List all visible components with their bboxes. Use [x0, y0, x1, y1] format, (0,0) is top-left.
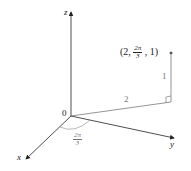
diagram-canvas	[0, 0, 191, 171]
y-axis	[71, 116, 174, 138]
cylindrical-coordinates-diagram: z y x 0 (2, 2π 3 , 1) 1 2 2π 3	[0, 0, 191, 171]
z-axis-label: z	[64, 8, 68, 17]
height-label: 1	[162, 72, 167, 81]
point-label-open: (2,	[120, 46, 131, 57]
origin-label: 0	[62, 109, 67, 118]
angle-fraction: 2π 3	[73, 132, 82, 147]
angle-arc	[60, 120, 90, 129]
point-marker	[170, 52, 173, 55]
point-theta-den: 3	[136, 53, 140, 60]
point-label: (2, 2π 3 , 1)	[120, 45, 158, 60]
x-axis	[26, 116, 71, 159]
radial-label: 2	[124, 95, 129, 104]
point-theta-fraction: 2π 3	[133, 45, 142, 60]
angle-label: 2π 3	[73, 130, 82, 147]
radial-segment	[71, 102, 171, 116]
angle-den: 3	[76, 140, 80, 147]
x-axis-label: x	[17, 153, 21, 162]
point-label-close: , 1)	[145, 46, 158, 57]
y-axis-label: y	[170, 140, 174, 149]
